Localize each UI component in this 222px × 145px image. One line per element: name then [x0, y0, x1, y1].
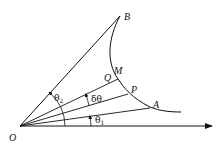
- label-P: P: [130, 84, 137, 95]
- label-O: O: [9, 132, 16, 143]
- diagram-canvas: O B A P Q M θ2 δθ θ1: [0, 0, 222, 145]
- radius-OP: [20, 94, 128, 126]
- label-B: B: [124, 11, 130, 22]
- label-theta1: θ1: [95, 115, 104, 126]
- label-theta2: θ2: [54, 93, 63, 104]
- radius-OB: [20, 16, 120, 126]
- polar-curve: [110, 16, 181, 112]
- delta-theta-arc: [86, 95, 89, 106]
- label-Q: Q: [104, 72, 112, 83]
- label-delta-theta: δθ: [91, 94, 102, 104]
- label-A: A: [152, 99, 160, 110]
- label-M: M: [113, 65, 123, 76]
- polar-area-diagram: O B A P Q M θ2 δθ θ1: [0, 0, 222, 145]
- theta1-arc: [90, 117, 91, 126]
